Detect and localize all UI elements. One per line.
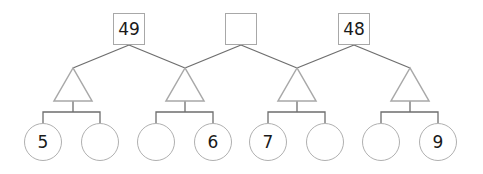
top-box-2[interactable] [225,13,257,45]
triangle-3[interactable] [278,68,316,101]
circle-6[interactable] [306,123,344,161]
top-box-3[interactable]: 48 [338,13,370,45]
circle-4[interactable]: 6 [194,123,232,161]
circle-1[interactable]: 5 [24,123,62,161]
circle-7[interactable] [362,123,400,161]
triangle-2[interactable] [166,68,204,101]
top-box-1[interactable]: 49 [113,13,145,45]
circle-5[interactable]: 7 [249,123,287,161]
circle-8[interactable]: 9 [419,123,457,161]
triangle-4[interactable] [391,68,429,101]
circle-2[interactable] [81,123,119,161]
triangle-1[interactable] [54,68,92,101]
circle-3[interactable] [137,123,175,161]
